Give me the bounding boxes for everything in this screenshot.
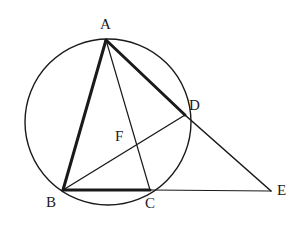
segment-DE: [185, 115, 271, 191]
point-label-E: E: [277, 183, 286, 198]
geometry-figure: A B C D E F: [0, 0, 304, 236]
circumcircle: [25, 39, 191, 205]
segment-AD: [106, 40, 185, 115]
point-label-C: C: [145, 196, 155, 211]
point-label-B: B: [46, 195, 56, 210]
segment-CE: [150, 190, 271, 191]
point-label-F: F: [115, 129, 123, 144]
point-label-D: D: [189, 98, 200, 113]
point-label-A: A: [100, 17, 111, 32]
